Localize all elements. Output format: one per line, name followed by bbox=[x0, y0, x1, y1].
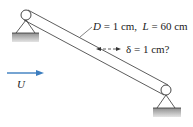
left-ground bbox=[12, 33, 39, 42]
dimensions-label: D = 1 cm, L = 60 cm bbox=[92, 20, 188, 32]
flow-arrow bbox=[7, 70, 44, 76]
flow-velocity-label: U bbox=[17, 78, 26, 90]
deflection-arrow bbox=[96, 47, 121, 51]
flow-arrowhead-icon bbox=[36, 70, 44, 76]
right-pin-support bbox=[153, 85, 181, 117]
cylinder-diagram: D = 1 cm, L = 60 cm δ = 1 cm? U bbox=[0, 0, 193, 127]
right-ground bbox=[153, 108, 181, 117]
dimension-leader-line bbox=[80, 27, 92, 37]
deflection-label: δ = 1 cm? bbox=[126, 43, 170, 55]
arrowhead-right-icon bbox=[116, 47, 121, 51]
